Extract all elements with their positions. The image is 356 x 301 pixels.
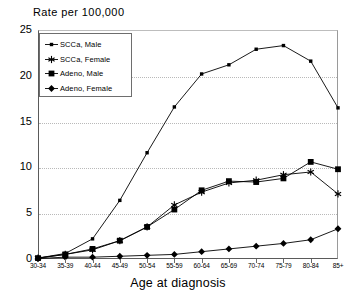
x-tickmark-65-69 <box>229 259 230 263</box>
x-tickmark-70-74 <box>256 259 257 263</box>
marker-small-square <box>50 43 53 46</box>
x-tickmark-35-39 <box>65 259 66 263</box>
legend-marker-icon <box>44 82 59 95</box>
x-tickmark-75-79 <box>283 259 284 263</box>
legend-item-label: Adeno, Female <box>59 84 112 93</box>
legend-marker-icon <box>44 53 59 66</box>
legend-item-1: SCCa, Female <box>44 52 110 67</box>
y-tick-15: 15 <box>6 116 32 127</box>
x-tickmark-45-49 <box>120 259 121 263</box>
y-tick-20: 20 <box>6 70 32 81</box>
legend-item-3: Adeno, Female <box>44 81 112 96</box>
y-axis-title: Rate per 100,000 <box>33 6 124 18</box>
legend-item-label: SCCa, Male <box>59 40 101 49</box>
gridline-5 <box>39 214 337 215</box>
y-tick-10: 10 <box>6 161 32 172</box>
chart-legend: SCCa, MaleSCCa, FemaleAdeno, MaleAdeno, … <box>39 33 132 97</box>
x-tickmark-50-54 <box>147 259 148 263</box>
gridline-10 <box>39 168 337 169</box>
legend-marker-icon <box>44 38 59 51</box>
x-axis-title: Age at diagnosis <box>0 276 356 290</box>
legend-item-label: Adeno, Male <box>59 69 103 78</box>
x-tick-85+: 85+ <box>321 262 355 270</box>
legend-item-0: SCCa, Male <box>44 37 101 52</box>
chart-root: Rate per 100,000 0510152025 30-3435-3940… <box>0 0 356 301</box>
x-tickmark-55-59 <box>174 259 175 263</box>
x-tickmark-40-44 <box>93 259 94 263</box>
x-tickmark-60-64 <box>202 259 203 263</box>
y-tick-25: 25 <box>6 24 32 35</box>
gridline-15 <box>39 123 337 124</box>
x-tickmark-80-84 <box>311 259 312 263</box>
legend-item-2: Adeno, Male <box>44 66 103 81</box>
marker-filled-diamond <box>48 85 55 92</box>
legend-marker-icon <box>44 67 59 80</box>
marker-filled-square <box>49 71 55 77</box>
legend-item-label: SCCa, Female <box>59 55 110 64</box>
y-tick-5: 5 <box>6 207 32 218</box>
